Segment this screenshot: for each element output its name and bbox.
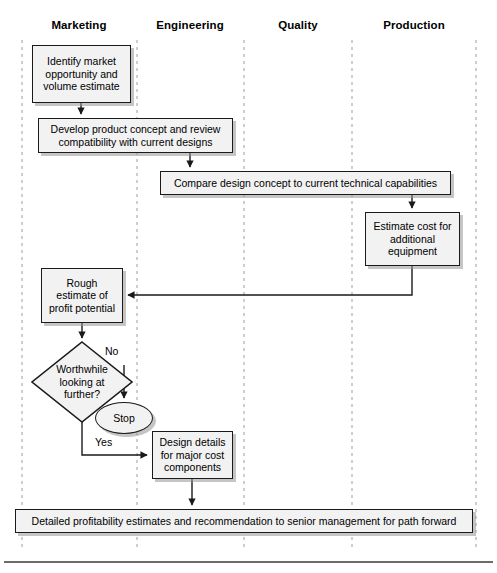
node-label: Estimate cost for additional equipment — [366, 220, 459, 258]
node-label: Develop product concept and review compa… — [39, 123, 232, 148]
edge-label-yes: Yes — [95, 436, 112, 448]
lane-header-engineering: Engineering — [156, 19, 224, 31]
swimlane-flowchart: Marketing Engineering Quality Production… — [0, 0, 497, 573]
node-estimate-cost-additional-equipment[interactable]: Estimate cost for additional equipment — [365, 212, 460, 266]
lane-header-marketing: Marketing — [51, 19, 106, 31]
node-develop-product-concept[interactable]: Develop product concept and review compa… — [38, 118, 233, 153]
node-identify-market-opportunity[interactable]: Identify market opportunity and volume e… — [32, 45, 131, 103]
node-detailed-profitability-estimates[interactable]: Detailed profitability estimates and rec… — [15, 509, 473, 533]
node-label: Rough estimate of profit potential — [42, 277, 122, 315]
lane-header-production: Production — [383, 19, 445, 31]
edge-label-no: No — [105, 345, 118, 357]
node-label: Compare design concept to current techni… — [170, 177, 441, 190]
edge-n4-n5 — [128, 266, 412, 295]
node-label: Identify market opportunity and volume e… — [33, 55, 130, 93]
node-label: Detailed profitability estimates and rec… — [28, 515, 461, 528]
node-label: Stop — [113, 412, 135, 425]
node-compare-design-concept[interactable]: Compare design concept to current techni… — [160, 171, 451, 195]
node-stop-terminator[interactable]: Stop — [95, 402, 153, 434]
lane-header-quality: Quality — [278, 19, 318, 31]
connectors — [81, 103, 412, 505]
node-label: Design details for major cost components — [153, 436, 232, 474]
node-rough-estimate-profit-potential[interactable]: Rough estimate of profit potential — [41, 268, 123, 323]
node-design-details-major-cost[interactable]: Design details for major cost components — [152, 431, 233, 479]
